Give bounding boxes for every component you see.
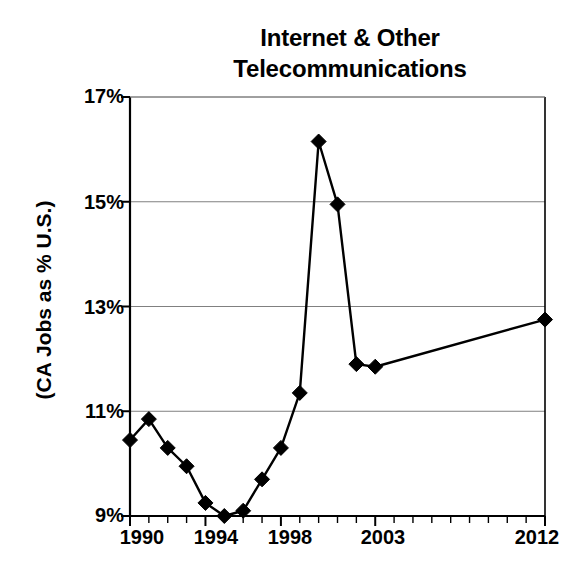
x-axis-ticks: [130, 516, 545, 526]
data-point-1995: [217, 509, 232, 524]
y-axis-ticks: [121, 97, 130, 516]
data-point-2012: [538, 312, 553, 327]
data-point-2003: [368, 359, 383, 374]
chart-container: Internet & Other Telecommunications (CA …: [0, 0, 583, 579]
data-point-2002: [349, 357, 364, 372]
data-point-1997: [255, 472, 270, 487]
data-point-2000: [311, 134, 326, 149]
data-point-markers: [123, 134, 553, 523]
gridlines: [130, 97, 545, 411]
data-point-1999: [292, 385, 307, 400]
data-point-1994: [198, 495, 213, 510]
plot-area: [0, 0, 583, 579]
data-point-1998: [273, 440, 288, 455]
data-point-2001: [330, 197, 345, 212]
